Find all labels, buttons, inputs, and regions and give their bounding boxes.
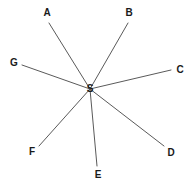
node-label-S[interactable]: S [87,84,94,94]
edge-S-A [49,23,90,89]
edge-S-F [39,89,90,146]
edge-S-E [90,89,97,166]
edge-S-G [22,65,90,89]
node-label-D[interactable]: D [167,148,174,158]
node-label-F[interactable]: F [29,147,35,157]
edges-group [22,23,171,166]
node-label-C[interactable]: C [176,65,183,75]
star-diagram: S A B C D E F G [0,0,193,186]
node-label-G[interactable]: G [10,58,18,68]
node-label-E[interactable]: E [95,170,102,180]
edge-S-C [90,70,171,89]
edge-S-B [90,23,128,89]
diagram-edges-layer [0,0,193,186]
node-label-B[interactable]: B [125,8,132,18]
edge-S-D [90,89,164,146]
node-label-A[interactable]: A [43,8,50,18]
